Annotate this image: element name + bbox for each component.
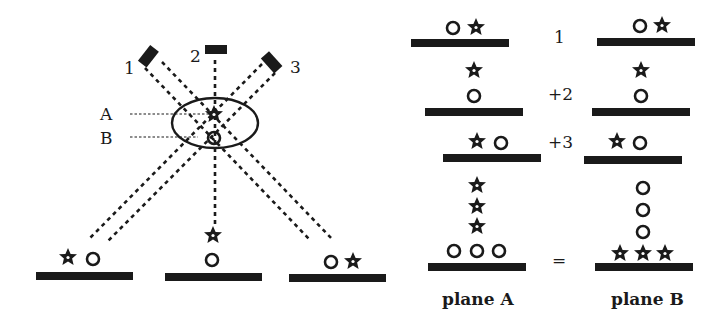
star-icon xyxy=(468,176,486,193)
row-1: 1 xyxy=(411,16,695,47)
detector-bar xyxy=(36,272,133,280)
plane-a-bar xyxy=(425,108,523,116)
star-icon xyxy=(611,244,629,261)
star-icon xyxy=(656,244,674,261)
equals-sign: = xyxy=(552,250,566,270)
projection-view-3 xyxy=(289,252,386,282)
circle-icon xyxy=(637,226,649,238)
star-icon xyxy=(468,217,486,234)
circle-icon xyxy=(493,245,505,257)
row-2-operator: +2 xyxy=(548,84,573,104)
row-sum-plane-a xyxy=(428,176,526,271)
circle-icon xyxy=(634,137,646,149)
source-3-label: 3 xyxy=(290,57,301,77)
row-3: +3 xyxy=(443,132,682,164)
source-2: 2 xyxy=(190,45,227,66)
plane-b-bar xyxy=(595,263,693,271)
circle-icon xyxy=(206,254,218,266)
source-3: 3 xyxy=(261,51,301,77)
circle-icon xyxy=(447,22,459,34)
star-icon xyxy=(468,132,486,149)
circle-icon xyxy=(87,253,99,265)
plane-a-label: A xyxy=(99,104,113,124)
circle-icon xyxy=(468,90,480,102)
star-icon xyxy=(608,132,626,149)
row-2: +2 xyxy=(425,61,690,116)
plane-b-bar xyxy=(584,156,682,164)
star-icon xyxy=(632,61,650,78)
star-icon xyxy=(467,18,485,35)
circle-icon xyxy=(495,137,507,149)
star-icon xyxy=(653,16,671,33)
circle-icon xyxy=(635,90,647,102)
circle-icon xyxy=(634,20,646,32)
source-2-label: 2 xyxy=(190,46,201,66)
source-1-label: 1 xyxy=(124,58,135,78)
ray-1a xyxy=(145,68,310,240)
star-icon xyxy=(204,226,222,243)
plane-a-bar xyxy=(411,39,509,47)
plane-a-bar xyxy=(443,154,541,162)
ray-1b xyxy=(162,62,333,240)
plane-a-bar xyxy=(428,263,526,271)
shift-and-add-reconstruction: 1 +2 +3 xyxy=(411,16,695,309)
star-icon xyxy=(465,61,483,78)
projection-view-2 xyxy=(165,226,262,281)
plane-b-bar xyxy=(592,108,690,116)
tomosynthesis-diagram: 1 2 3 A B xyxy=(0,0,726,323)
circle-icon xyxy=(448,245,460,257)
plane-a-column-label: plane A xyxy=(442,289,514,309)
detector-bar xyxy=(165,273,262,281)
projection-view-1 xyxy=(36,248,133,280)
circle-icon xyxy=(637,182,649,194)
star-icon xyxy=(344,252,362,269)
plane-b-column-label: plane B xyxy=(611,289,684,309)
ray-3a xyxy=(90,64,262,238)
plane-b-bar xyxy=(597,38,695,46)
source-1: 1 xyxy=(124,45,159,78)
ray-3b xyxy=(108,73,275,241)
circle-icon xyxy=(325,256,337,268)
circle-icon xyxy=(637,204,649,216)
plane-b-label: B xyxy=(100,128,113,148)
star-icon xyxy=(468,197,486,214)
row-sum-plane-b xyxy=(595,182,693,271)
row-3-operator: +3 xyxy=(548,132,573,152)
row-1-operator: 1 xyxy=(554,27,565,47)
star-icon xyxy=(59,248,77,265)
star-icon xyxy=(634,244,652,261)
detector-bar xyxy=(289,274,386,282)
circle-icon xyxy=(471,245,483,257)
acquisition-geometry: 1 2 3 A B xyxy=(36,45,386,282)
